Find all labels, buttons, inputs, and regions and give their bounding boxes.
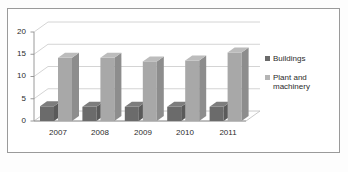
legend-label-buildings: Buildings xyxy=(273,54,305,64)
x-tick-label-2007: 2007 xyxy=(41,128,75,137)
chart-legend: Buildings Plant and machinery xyxy=(265,54,339,101)
y-tick-label-0: 0 xyxy=(8,116,26,125)
bar-buildings-2011 xyxy=(210,102,231,121)
legend-item-plant-and-machinery[interactable]: Plant and machinery xyxy=(265,73,339,92)
y-tick-label-15: 15 xyxy=(8,49,26,58)
x-tick-label-2010: 2010 xyxy=(168,128,202,137)
chart-border: 20 15 10 5 0 2007 2008 2009 2010 2011 Bu… xyxy=(7,8,340,153)
y-tick-label-20: 20 xyxy=(8,27,26,36)
x-tick-label-2009: 2009 xyxy=(126,128,160,137)
bar-chart-figure: 20 15 10 5 0 2007 2008 2009 2010 2011 Bu… xyxy=(0,0,348,172)
bar-buildings-2009 xyxy=(125,102,146,121)
legend-swatch-buildings xyxy=(265,56,270,61)
x-tick-label-2008: 2008 xyxy=(83,128,117,137)
bar-plant-2007 xyxy=(58,53,79,121)
bar-plant-2010 xyxy=(185,56,206,122)
legend-swatch-plant-and-machinery xyxy=(265,75,270,80)
bar-plant-2008 xyxy=(100,53,121,121)
bar-buildings-2010 xyxy=(167,102,188,121)
bar-plant-2009 xyxy=(143,56,164,121)
plot-area: 20 15 10 5 0 2007 2008 2009 2010 2011 Bu… xyxy=(8,9,341,154)
y-tick-label-5: 5 xyxy=(8,94,26,103)
y-tick-label-10: 10 xyxy=(8,71,26,80)
bar-plant-2011 xyxy=(228,48,249,122)
bar-group-2008 xyxy=(82,53,121,121)
bar-group-2007 xyxy=(40,53,79,121)
bar-buildings-2008 xyxy=(82,102,103,121)
bar-buildings-2007 xyxy=(40,101,61,121)
bar-group-2010 xyxy=(167,56,206,122)
bar-group-2011 xyxy=(210,48,249,122)
legend-item-buildings[interactable]: Buildings xyxy=(265,54,339,64)
legend-label-plant-and-machinery: Plant and machinery xyxy=(273,73,339,92)
x-tick-label-2011: 2011 xyxy=(211,128,245,137)
